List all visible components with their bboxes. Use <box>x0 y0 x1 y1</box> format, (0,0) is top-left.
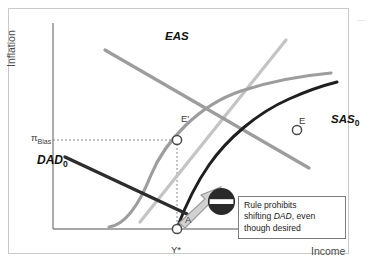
pi-bias-tick-label: πBias <box>31 132 51 145</box>
edge-fragment: — <box>357 14 372 27</box>
pi-bias-subscript: Bias <box>38 138 52 145</box>
no-entry-sign-icon <box>207 187 236 216</box>
dad-text: DAD <box>37 153 63 167</box>
callout-line-2-pre: shifting <box>244 211 274 221</box>
callout-dad-emphasis: DAD <box>274 211 292 221</box>
point-marker-e-prime <box>172 135 181 144</box>
callout-box: Rule prohibits shifting DAD, even though… <box>238 196 346 239</box>
point-label-e-prime: E' <box>181 113 189 124</box>
point-marker-ystar <box>172 224 181 233</box>
figure-container: Inflation Income πBias DAD0 EAS SAS0 E' … <box>0 0 372 272</box>
callout-line-2-post: , even <box>292 211 315 221</box>
x-axis-label: Income <box>311 245 345 257</box>
page-edge-fragments: — <box>357 14 372 254</box>
callout-line-3: though desired <box>244 223 341 234</box>
callout-line-2: shifting DAD, even <box>244 211 341 222</box>
curve-label-sas0: SAS0 <box>331 113 359 128</box>
point-marker-e <box>292 125 301 134</box>
curve-label-dad0: DAD0 <box>37 153 68 169</box>
figure-frame: Inflation Income πBias DAD0 EAS SAS0 E' … <box>8 8 349 254</box>
curve-label-eas: EAS <box>165 30 189 42</box>
callout-line-1: Rule prohibits <box>244 200 341 211</box>
point-label-ystar: Y* <box>171 244 181 255</box>
point-label-e: E <box>299 115 305 126</box>
point-label-a: A <box>185 214 191 225</box>
dad-subscript: 0 <box>63 159 68 169</box>
sas-text: SAS <box>331 113 355 125</box>
y-axis-label: Inflation <box>5 0 17 67</box>
